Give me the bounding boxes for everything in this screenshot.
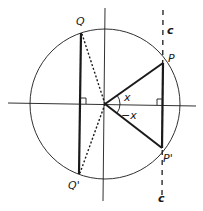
angle-arc [117,95,120,113]
chord-Q-Q-prime [79,33,81,174]
label-angle-x: x [123,91,131,104]
label-Q-prime: Q' [68,179,80,192]
radius-to-P [105,63,163,104]
label-angle-neg-x: −x [121,109,137,122]
label-c-bottom: c [158,192,165,205]
right-angle-marker-left [81,98,86,104]
dotted-radius-to-Q [82,34,105,104]
horizontal-axis [8,103,196,106]
unit-circle-diagram: Q Q' P P' c c x −x [0,0,203,211]
right-angle-marker-right [157,99,162,105]
dotted-radius-to-Q-prime [80,104,105,173]
label-c-top: c [167,24,174,37]
label-Q: Q [76,15,85,28]
chord-P-P-prime [162,63,163,148]
label-P-prime: P' [163,152,173,165]
label-P: P [168,52,175,65]
